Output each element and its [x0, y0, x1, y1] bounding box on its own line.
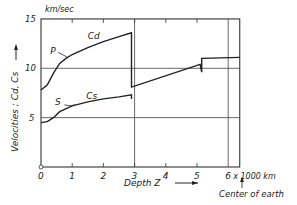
plot-frame [41, 19, 240, 167]
cs-label: Cs [86, 91, 97, 101]
x-arrowhead-icon [192, 181, 198, 185]
axis-labels: 0123456x 1000 km51015km/secDepth ZCenter… [10, 5, 284, 199]
x-tick-label: 6 [225, 171, 231, 181]
velocity-depth-chart: 0123456x 1000 km51015km/secDepth ZCenter… [0, 0, 297, 205]
data-series [41, 33, 240, 123]
grid-lines [41, 19, 240, 167]
p-label-leader [58, 53, 67, 58]
y-unit-label: km/sec [45, 5, 74, 14]
x-tick-label: 2 [100, 171, 106, 181]
x-unit-label: x 1000 km [232, 172, 276, 181]
x-tick-label: 4 [163, 171, 169, 181]
y-axis-title: Velocities ; Cd, Cs [10, 71, 20, 152]
x-tick-label: 5 [194, 171, 200, 181]
axis-ticks [39, 19, 197, 169]
plot-border [41, 19, 240, 167]
x-tick-label: 0 [38, 171, 44, 181]
p-wave-line [41, 33, 240, 90]
s-label: S [55, 97, 61, 107]
y-arrowhead-icon [14, 44, 18, 50]
x-tick-label: 1 [69, 171, 75, 181]
y-tick-label: 15 [25, 14, 36, 24]
y-tick-label: 10 [25, 63, 36, 73]
x-axis-title: Depth Z [124, 178, 161, 188]
s-label-leader [64, 105, 75, 106]
center-of-earth-label: Center of earth [219, 189, 284, 199]
p-label: P [50, 46, 56, 56]
y-tick-label: 5 [29, 113, 34, 123]
origin-marker [39, 165, 43, 169]
cd-label: Cd [88, 31, 100, 41]
